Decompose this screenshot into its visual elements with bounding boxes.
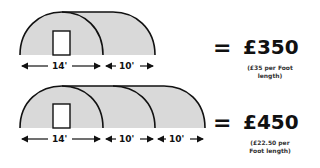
note-line: Foot length) (240, 147, 300, 155)
price-option-1: £350 (243, 37, 299, 57)
tunnel-option-2: 14' 10' 10' (20, 86, 205, 144)
note-line: (£35 per Foot (240, 64, 300, 72)
dimension-label: 14' (52, 61, 67, 71)
dimension-label: 10' (119, 61, 134, 71)
door (53, 104, 70, 128)
equals-sign: = (213, 112, 231, 134)
tunnel-option-1: 14' 10' (20, 12, 155, 71)
door (53, 31, 70, 55)
price-note-option-2: (£22.50 per Foot length) (240, 139, 300, 155)
dimension-label: 14' (52, 134, 67, 144)
note-line: length) (240, 72, 300, 80)
equals-sign: = (213, 37, 231, 59)
note-line: (£22.50 per (240, 139, 300, 147)
price-option-2: £450 (243, 112, 299, 132)
dimension-label: 10' (119, 134, 134, 144)
price-note-option-1: (£35 per Foot length) (240, 64, 300, 80)
tunnel-body (20, 86, 205, 128)
dimension-label: 10' (169, 134, 184, 144)
